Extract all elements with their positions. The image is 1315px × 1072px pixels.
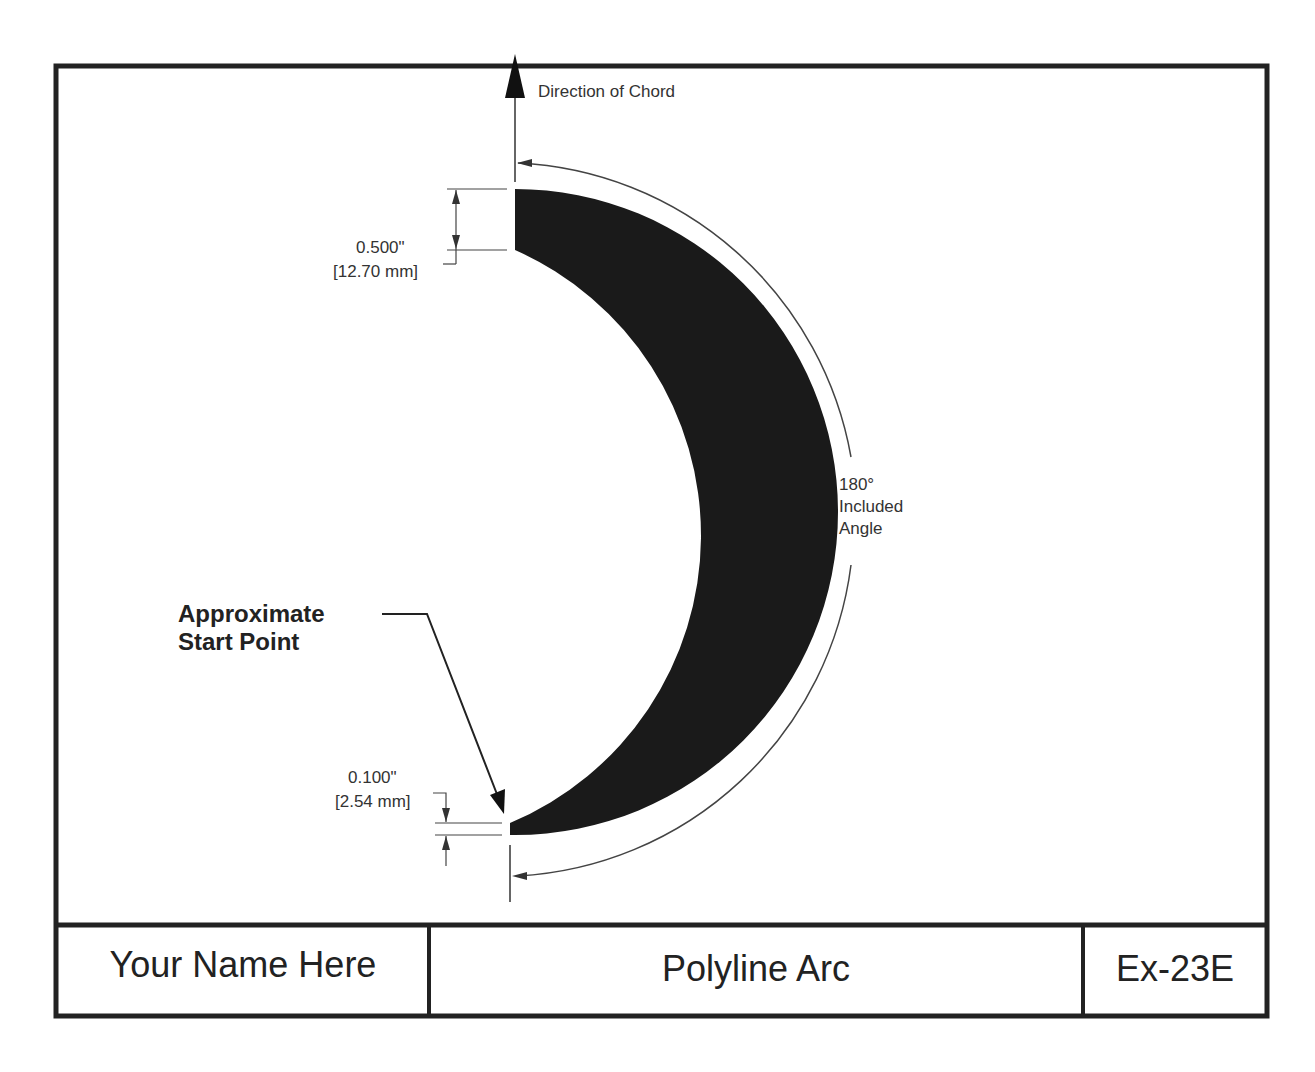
arrowhead-icon [442,836,450,850]
arrowhead-icon [442,808,450,822]
end-width-inch: 0.100" [348,768,397,788]
arrowhead-icon [517,159,532,167]
start-width-inch: 0.500" [356,238,405,258]
callout-arrow-icon [490,789,505,814]
arrowhead-icon [452,190,460,204]
arrowhead-icon [512,872,527,880]
title-block-title: Polyline Arc [430,948,1082,990]
drawing-canvas [0,0,1315,1072]
direction-arrow-icon [505,54,525,98]
drawing-frame [56,66,1267,1016]
arrowhead-icon [452,235,460,249]
angle-label: 180° Included Angle [839,474,903,540]
start-width-mm: [12.70 mm] [333,262,418,282]
title-block-number: Ex-23E [1085,948,1265,990]
direction-label: Direction of Chord [538,82,675,102]
end-width-mm: [2.54 mm] [335,792,411,812]
callout-label: Approximate Start Point [178,600,325,656]
callout-leader [382,614,500,802]
polyline-arc [510,189,838,835]
title-block-name: Your Name Here [58,944,428,986]
